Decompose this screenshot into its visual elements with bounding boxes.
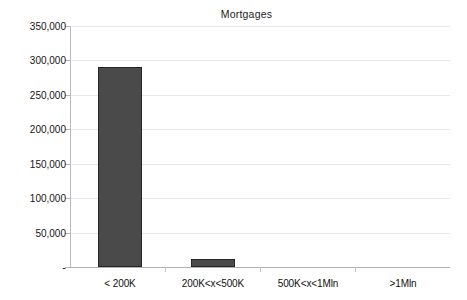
y-axis-label: 300,000 [4,55,66,66]
y-axis-label: 50,000 [4,227,66,238]
gridline [70,26,450,27]
bar-200k-500k [191,259,235,267]
bar-chart: Mortgages 350,000 300,000 250,000 200,00… [0,0,467,300]
y-axis-label: 250,000 [4,89,66,100]
x-axis-label: >1Mln [389,278,416,289]
gridline [70,60,450,61]
y-axis-label: 100,000 [4,193,66,204]
y-axis-label: 350,000 [4,21,66,32]
chart-title: Mortgages [0,8,467,20]
x-axis-tick [165,267,166,272]
y-axis-label: 150,000 [4,158,66,169]
plot-area [70,26,450,267]
bar-lt-200k [98,67,142,267]
x-axis-label: 200K<x<500K [182,278,244,289]
y-axis-label-zero: - [4,261,66,273]
x-axis-tick [260,267,261,272]
x-axis-label: 500K<x<1Mln [278,278,339,289]
y-axis-line [70,26,71,268]
x-axis-labels: < 200K 200K<x<500K 500K<x<1Mln >1Mln [70,278,450,298]
y-axis-labels: 350,000 300,000 250,000 200,000 150,000 … [0,0,66,300]
x-axis-tick [355,267,356,272]
x-axis-label: < 200K [104,278,135,289]
y-axis-label: 200,000 [4,124,66,135]
